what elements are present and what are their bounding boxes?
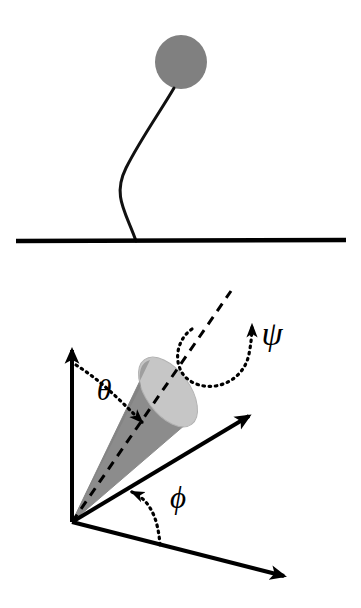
tethered-sphere-panel xyxy=(16,35,346,241)
figure-canvas: θ ϕ ψ xyxy=(0,0,361,608)
figure-root: θ ϕ ψ xyxy=(0,0,361,608)
ground-line xyxy=(16,240,346,241)
euler-angle-cone-panel: θ ϕ ψ xyxy=(72,291,284,576)
phi-label: ϕ xyxy=(170,480,186,515)
lower-right-axis xyxy=(72,522,284,576)
theta-label: θ xyxy=(97,373,112,406)
sphere xyxy=(155,35,207,89)
psi-label: ψ xyxy=(261,315,283,352)
psi-arc xyxy=(178,325,252,386)
wavy-tether xyxy=(120,88,174,241)
